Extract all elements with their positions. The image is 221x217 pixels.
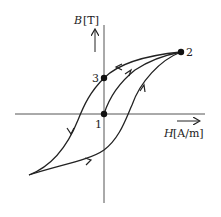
b-axis-unit: [T] — [83, 14, 99, 27]
hysteresis-diagram: 1 2 3 B [T] H [A/m] — [0, 0, 221, 217]
point-3 — [101, 75, 107, 81]
point-1-label: 1 — [95, 118, 102, 131]
arrow-icon — [125, 70, 131, 76]
arrow-icon — [67, 128, 74, 134]
point-3-label: 3 — [92, 72, 99, 85]
b-axis-symbol: B — [73, 14, 82, 27]
point-2 — [178, 49, 184, 55]
h-axis-unit: [A/m] — [173, 127, 204, 140]
point-2-label: 2 — [186, 46, 193, 59]
initial-magnetization-curve — [104, 52, 181, 114]
point-1 — [101, 111, 107, 117]
